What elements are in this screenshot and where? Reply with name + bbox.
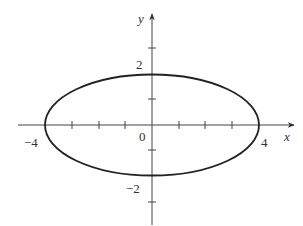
- ellipse-plot: y x 0 −4 4 2 −2: [0, 0, 303, 226]
- x-neg-label: −4: [24, 135, 38, 150]
- x-axis-label: x: [283, 129, 290, 144]
- origin-label: 0: [139, 129, 146, 144]
- y-neg-label: −2: [126, 181, 140, 196]
- y-axis-label: y: [136, 11, 144, 26]
- y-pos-label: 2: [136, 57, 143, 72]
- x-pos-label: 4: [261, 135, 268, 150]
